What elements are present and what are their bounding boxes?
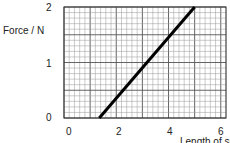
x-tick-4: 4	[167, 127, 173, 137]
x-tick-2: 2	[116, 127, 122, 137]
x-tick-0: 0	[66, 127, 72, 137]
x-axis-label: Length of sp	[180, 137, 230, 143]
graph-plot	[0, 0, 230, 143]
y-tick-1: 1	[46, 59, 52, 69]
y-tick-2: 2	[46, 3, 52, 13]
y-tick-0: 0	[46, 113, 52, 123]
y-axis-label: Force / N	[3, 26, 44, 36]
